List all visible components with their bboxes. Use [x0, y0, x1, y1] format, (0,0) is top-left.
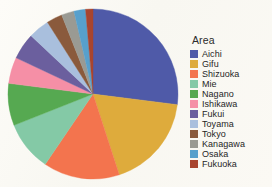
legend-swatch-icon — [190, 120, 198, 128]
legend-swatch-icon — [190, 60, 198, 68]
pie-plot-area — [6, 7, 180, 181]
legend-item-fukuoka[interactable]: Fukuoka — [190, 159, 270, 169]
legend-swatch-icon — [190, 80, 198, 88]
legend-item-label: Fukuoka — [202, 159, 237, 169]
legend-item-label: Fukui — [202, 109, 224, 119]
legend-item-shizuoka[interactable]: Shizuoka — [190, 69, 270, 79]
legend-item-aichi[interactable]: Aichi — [190, 49, 270, 59]
legend-swatch-icon — [190, 110, 198, 118]
legend-swatch-icon — [190, 160, 198, 168]
legend-swatch-icon — [190, 50, 198, 58]
legend-item-list: AichiGifuShizuokaMieNaganoIshikawaFukuiT… — [190, 49, 270, 169]
legend-item-label: Aichi — [202, 49, 222, 59]
legend-item-toyama[interactable]: Toyama — [190, 119, 270, 129]
legend-item-label: Gifu — [202, 59, 219, 69]
legend-swatch-icon — [190, 70, 198, 78]
pie-chart-figure: Area AichiGifuShizuokaMieNaganoIshikawaF… — [0, 0, 272, 187]
legend-item-nagano[interactable]: Nagano — [190, 89, 270, 99]
legend-item-ishikawa[interactable]: Ishikawa — [190, 99, 270, 109]
legend-item-label: Mie — [202, 79, 217, 89]
pie-slice-aichi[interactable] — [93, 9, 178, 105]
legend-item-label: Ishikawa — [202, 99, 237, 109]
legend-item-label: Osaka — [202, 149, 228, 159]
legend-item-fukui[interactable]: Fukui — [190, 109, 270, 119]
legend-item-label: Tokyo — [202, 129, 226, 139]
legend-swatch-icon — [190, 90, 198, 98]
legend-item-mie[interactable]: Mie — [190, 79, 270, 89]
legend-item-label: Kanagawa — [202, 139, 245, 149]
legend-item-label: Nagano — [202, 89, 234, 99]
legend-swatch-icon — [190, 150, 198, 158]
legend-swatch-icon — [190, 100, 198, 108]
legend-item-label: Toyama — [202, 119, 234, 129]
pie-svg — [6, 7, 180, 181]
legend-title: Area — [192, 34, 270, 47]
legend-item-label: Shizuoka — [202, 69, 239, 79]
legend-swatch-icon — [190, 130, 198, 138]
legend: Area AichiGifuShizuokaMieNaganoIshikawaF… — [190, 34, 270, 169]
legend-swatch-icon — [190, 140, 198, 148]
legend-item-kanagawa[interactable]: Kanagawa — [190, 139, 270, 149]
legend-item-osaka[interactable]: Osaka — [190, 149, 270, 159]
pie-slice-group — [8, 9, 178, 179]
legend-item-tokyo[interactable]: Tokyo — [190, 129, 270, 139]
legend-item-gifu[interactable]: Gifu — [190, 59, 270, 69]
